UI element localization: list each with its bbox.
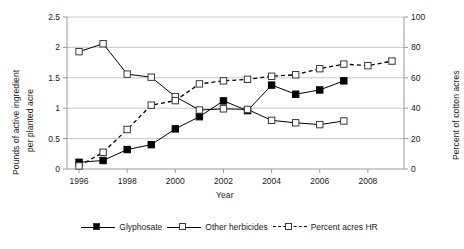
data-point-glyphosate [124,146,130,152]
data-point-other-herbicides [100,41,106,47]
legend-key-percent-acres-hr [273,222,307,232]
data-point-percent-acres-hr [389,58,395,64]
y2-tick-label: 80 [411,42,421,52]
x-tick-label: 2008 [358,176,377,186]
data-point-other-herbicides [76,48,82,54]
data-point-other-herbicides [244,106,250,112]
y2-axis-title: Percent of cotton acres [451,70,461,160]
data-point-percent-acres-hr [100,149,106,155]
data-point-percent-acres-hr [365,62,371,68]
data-point-percent-acres-hr [148,102,154,108]
data-point-glyphosate [341,78,347,84]
chart-legend: Glyphosate Other herbicides Percent acre… [0,222,464,232]
legend-label-other-herbicides: Other herbicides [205,222,267,232]
data-point-percent-acres-hr [172,97,178,103]
series-line-glyphosate [79,81,344,162]
data-point-other-herbicides [220,106,226,112]
legend-label-glyphosate: Glyphosate [119,222,162,232]
x-tick-label: 2000 [166,176,185,186]
y-tick-label: 2 [55,42,60,52]
data-point-other-herbicides [268,117,274,123]
data-point-percent-acres-hr [268,73,274,79]
y-axis-title-line1: Pounds of active ingredient [11,70,21,175]
y-tick-label: 2.5 [48,12,60,22]
cotton-herbicide-chart: Pounds of active ingredient per planted … [0,0,464,249]
data-point-glyphosate [317,87,323,93]
data-point-percent-acres-hr [292,72,298,78]
data-point-glyphosate [100,157,106,163]
x-axis-title: Year [216,190,234,200]
data-point-glyphosate [148,141,154,147]
data-point-glyphosate [196,114,202,120]
data-point-glyphosate [220,98,226,104]
y2-tick-label: 60 [411,73,421,83]
x-tick-label: 2004 [262,176,281,186]
x-tick-label: 2006 [310,176,329,186]
y-tick-label: 0 [55,164,60,174]
legend-key-glyphosate [81,222,115,232]
data-point-percent-acres-hr [76,163,82,169]
data-point-percent-acres-hr [317,65,323,71]
data-point-percent-acres-hr [220,78,226,84]
data-point-percent-acres-hr [196,81,202,87]
data-point-other-herbicides [124,71,130,77]
data-point-glyphosate [268,82,274,88]
data-point-percent-acres-hr [124,126,130,132]
y-axis-title-line2: per planted acre [25,89,35,152]
data-point-other-herbicides [292,120,298,126]
data-point-other-herbicides [148,74,154,80]
series-line-other-herbicides [79,44,344,125]
data-point-other-herbicides [341,118,347,124]
data-point-glyphosate [292,91,298,97]
data-point-glyphosate [172,126,178,132]
x-tick-label: 1998 [118,176,137,186]
y-tick-label: 1 [55,103,60,113]
legend-item-other-herbicides: Other herbicides [167,222,272,232]
data-point-other-herbicides [196,107,202,113]
y2-tick-label: 0 [411,164,416,174]
plot-area: 00.511.522.50204060801001996199820002002… [0,0,464,215]
y2-tick-label: 40 [411,103,421,113]
legend-item-percent-acres-hr: Percent acres HR [273,222,383,232]
y2-tick-label: 20 [411,134,421,144]
data-point-other-herbicides [317,121,323,127]
data-point-percent-acres-hr [341,61,347,67]
x-tick-label: 2002 [214,176,233,186]
y-tick-label: 0.5 [48,134,60,144]
legend-key-other-herbicides [167,222,201,232]
legend-label-percent-acres-hr: Percent acres HR [311,222,378,232]
y-tick-label: 1.5 [48,73,60,83]
data-point-percent-acres-hr [244,76,250,82]
y2-tick-label: 100 [411,12,425,22]
legend-item-glyphosate: Glyphosate [81,222,167,232]
x-tick-label: 1996 [70,176,89,186]
